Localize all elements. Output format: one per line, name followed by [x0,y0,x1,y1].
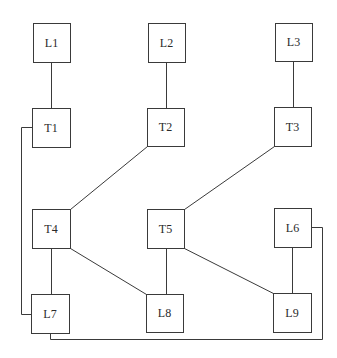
node-l2: L2 [149,24,186,63]
node-l1: L1 [34,24,71,63]
node-label: L9 [285,306,298,320]
topology-diagram: L1L2L3T1T2T3T4T5L6L7L8L9 [0,0,337,358]
nodes-layer: L1L2L3T1T2T3T4T5L6L7L8L9 [32,24,313,334]
node-label: L3 [287,35,300,49]
node-label: T3 [286,120,299,134]
node-t2: T2 [148,109,185,147]
edge-t3-t5 [185,147,275,210]
node-label: L2 [160,36,173,50]
node-t1: T1 [33,109,71,148]
node-label: L1 [45,36,58,50]
node-l3: L3 [276,24,313,62]
node-label: T1 [44,121,57,135]
edge-t5-l9 [185,249,274,294]
node-l9: L9 [274,294,312,333]
node-label: T4 [44,222,57,236]
node-label: T5 [159,222,172,236]
edge-t4-l8 [71,249,147,295]
node-label: L8 [158,306,171,320]
node-l7: L7 [32,295,70,334]
edge-t2-t4 [71,147,148,210]
node-label: T2 [159,120,172,134]
node-l6: L6 [275,209,312,248]
node-label: L6 [286,221,299,235]
node-t4: T4 [33,210,71,249]
edge-t1-l7 [22,128,33,315]
node-t5: T5 [148,210,185,249]
node-label: L7 [43,307,56,321]
node-l8: L8 [147,295,184,333]
node-t3: T3 [275,108,312,147]
